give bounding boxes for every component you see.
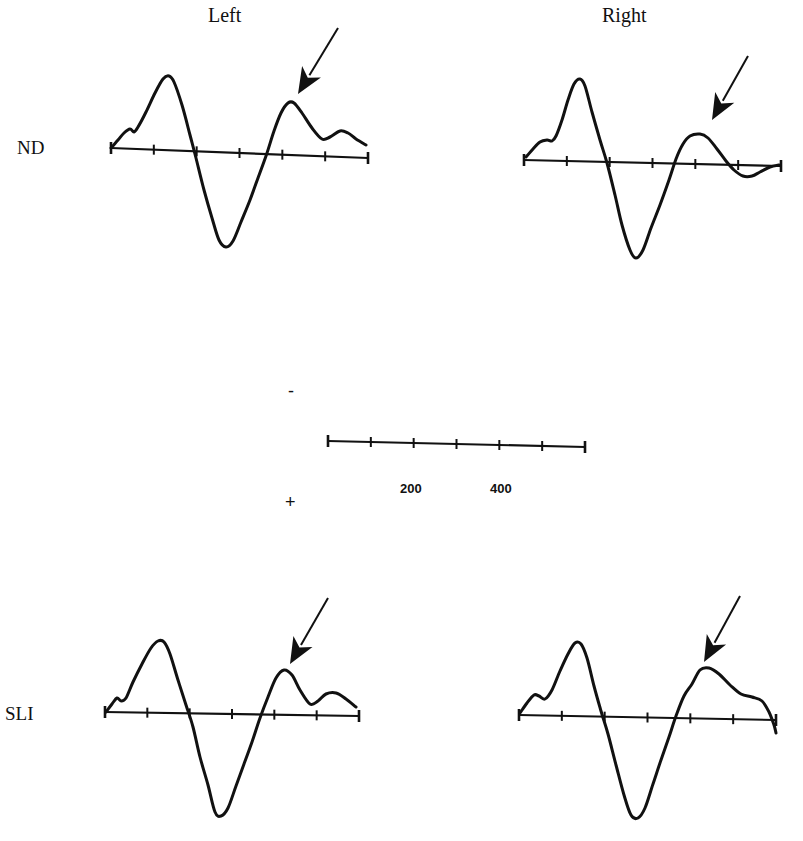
arrow-icon-sli-left bbox=[290, 598, 328, 664]
time-axis-nd-left bbox=[111, 142, 368, 164]
panel-sli-left bbox=[105, 598, 359, 816]
panels-group bbox=[105, 28, 781, 819]
panel-sli-right bbox=[519, 596, 776, 819]
scale-bar-axis bbox=[328, 435, 585, 453]
waveform-nd-left bbox=[111, 76, 366, 247]
arrow-icon-nd-left bbox=[298, 28, 338, 94]
waveform-figure bbox=[0, 0, 803, 841]
scale-bar bbox=[328, 435, 585, 453]
time-axis-sli-right bbox=[519, 709, 776, 726]
panel-nd-right bbox=[524, 56, 781, 258]
waveform-nd-right bbox=[526, 79, 779, 258]
panel-nd-left bbox=[111, 28, 368, 247]
time-axis-nd-right bbox=[524, 154, 781, 172]
arrow-icon-nd-right bbox=[712, 56, 748, 120]
time-axis-sli-left bbox=[105, 706, 359, 722]
waveform-sli-right bbox=[520, 642, 776, 819]
waveform-sli-left bbox=[106, 640, 356, 816]
arrow-icon-sli-right bbox=[704, 596, 740, 662]
